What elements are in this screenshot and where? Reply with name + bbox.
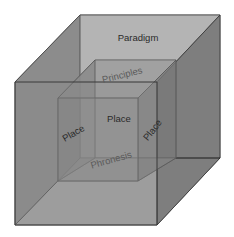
label-paradigm: Paradigm (118, 32, 159, 43)
nested-cube-diagram: Paradigm Principles Place Place Place Ph… (0, 0, 234, 237)
label-place-front: Place (107, 113, 131, 124)
outer-front-face (15, 82, 157, 225)
